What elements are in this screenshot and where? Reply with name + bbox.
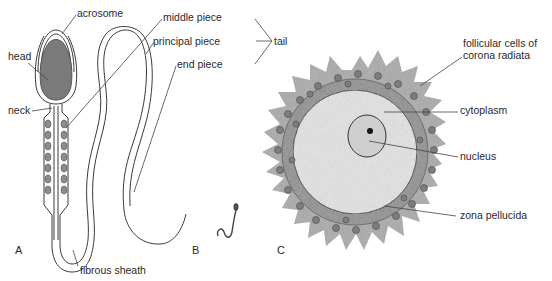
sperm-b-small [218, 204, 238, 237]
panel-letter-a: A [15, 244, 22, 256]
sperm-head [40, 40, 72, 101]
label-zona-pellucida: zona pellucida [460, 209, 527, 221]
label-principal-piece: principal piece [153, 35, 220, 47]
label-neck: neck [8, 104, 30, 116]
label-tail: tail [274, 35, 287, 47]
label-fibrous-sheath: fibrous sheath [80, 264, 146, 276]
label-middle-piece: middle piece [163, 11, 222, 23]
label-end-piece: end piece [177, 58, 223, 70]
label-follicular-line1: follicular cells of [463, 37, 537, 49]
panel-letter-c: C [277, 244, 285, 256]
label-cytoplasm: cytoplasm [460, 104, 507, 116]
panel-letter-b: B [192, 244, 199, 256]
nucleolus [367, 128, 373, 134]
label-nucleus: nucleus [460, 150, 496, 162]
label-acrosome: acrosome [77, 7, 123, 19]
label-head: head [8, 50, 31, 62]
mitochondria [45, 120, 67, 194]
nucleus-region [348, 115, 386, 157]
sperm-a-drawing [35, 27, 186, 273]
label-follicular-line2: corona radiata [463, 49, 530, 61]
